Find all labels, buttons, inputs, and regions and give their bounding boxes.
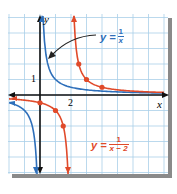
blue-denominator: x [118,36,124,45]
x-tick-2: 2 [68,97,73,108]
x-axis-label: x [157,98,162,110]
red-numerator: 1 [116,136,120,144]
blue-fraction: 1 x [118,28,124,45]
red-denominator: x − 2 [109,144,129,153]
function-graph [0,0,177,194]
blue-eq-lhs: y = [100,31,116,43]
y-axis-label: y [44,13,49,25]
y-tick-1: 1 [31,73,36,84]
red-fraction: 1 x − 2 [109,136,129,153]
red-eq-lhs: y = [91,139,107,151]
red-equation-label: y = 1 x − 2 [91,136,129,153]
blue-equation-label: y = 1 x [100,28,124,45]
blue-numerator: 1 [119,28,123,36]
grid-card [8,14,168,174]
